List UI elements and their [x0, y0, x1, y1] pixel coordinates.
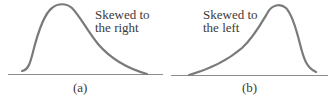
label-b-line2: the left [203, 20, 240, 35]
label-a-line2: the right [95, 20, 139, 35]
panel-b: Skewed to the left (b) [171, 5, 328, 95]
skewness-diagram: Skewed to the right (a) Skewed to the le… [0, 0, 333, 105]
caption-b: (b) [242, 80, 257, 95]
panel-a: Skewed to the right (a) [8, 4, 163, 95]
caption-a: (a) [73, 80, 87, 95]
